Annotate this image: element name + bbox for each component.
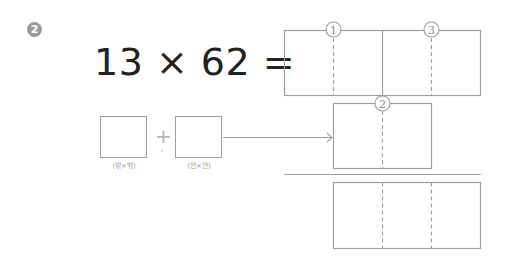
step-2-circle-icon: 2 (375, 96, 390, 111)
step-3-circle-icon: 3 (424, 22, 439, 37)
step-1-circle-icon: 1 (326, 22, 341, 37)
vertical-multiplication-diagram: 1 3 2 (0, 0, 505, 258)
svg-text:1: 1 (330, 24, 337, 37)
top-answer-box[interactable] (285, 31, 481, 96)
svg-text:2: 2 (379, 98, 386, 111)
middle-answer-box[interactable] (334, 104, 432, 169)
final-answer-box[interactable] (334, 183, 481, 249)
svg-text:3: 3 (428, 24, 435, 37)
arrow-right-icon (223, 133, 332, 142)
